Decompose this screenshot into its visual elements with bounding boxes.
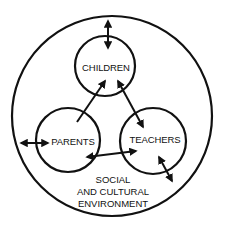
environment-label-line-3: ENVIRONMENT <box>78 198 148 209</box>
children-label: CHILDREN <box>82 62 130 73</box>
parents-teachers-arrow <box>87 151 136 157</box>
children-teachers-arrow <box>118 81 143 127</box>
parents-label: PARENTS <box>51 136 94 147</box>
environment-label-line-1: SOCIAL <box>96 174 131 185</box>
teachers-label: TEACHERS <box>130 134 181 145</box>
environment-label-line-2: AND CULTURAL <box>77 186 149 197</box>
parents-to-children-arrow <box>77 81 105 122</box>
relationship-diagram: CHILDREN PARENTS TEACHERS SOCIAL AND CUL… <box>0 0 227 231</box>
